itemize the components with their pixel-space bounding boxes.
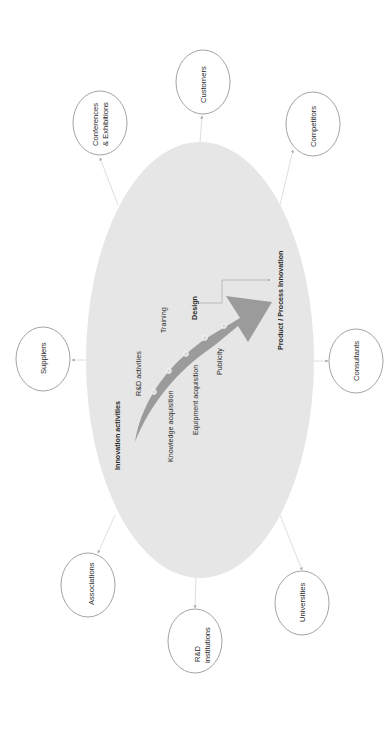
node-label: Consultants [352,341,361,381]
activity-rd: R&D activities [134,351,143,396]
connector-associations [98,515,115,553]
activity-knowledge-acquisition: Knowledge acquisition [166,390,175,462]
node-label-line1: Conferences [91,103,100,146]
node-rd-institutions: R&D institutions [168,609,222,673]
node-customers: Customers [176,50,230,114]
outcome-label: Product / Process Innovation [276,251,285,350]
step-dot [152,390,157,395]
connector-competitors [280,150,293,205]
node-consultants: Consultants [329,329,383,393]
activity-training: Training [159,307,168,333]
node-conferences: Conferences & Exhibitions [73,91,127,155]
node-universities: Universities [275,571,329,635]
node-label-line2: institutions [203,627,212,663]
innovation-sources-diagram: Innovation activities R&D activities Kno… [0,0,391,739]
connector-universities [280,515,302,570]
node-label: Competitors [309,106,318,147]
node-label-line1: R&D [193,645,202,662]
central-ellipse [86,142,314,578]
node-label: Suppliers [39,342,48,374]
node-label: Associations [87,562,96,605]
node-label: Customers [199,66,208,103]
node-associations: Associations [61,553,115,617]
node-suppliers: Suppliers [16,327,70,391]
step-dot [184,352,189,357]
activity-design: Design [190,296,199,320]
connector-conferences [100,158,118,205]
step-dot [222,324,227,329]
connector-customers [200,116,202,143]
node-competitors: Competitors [286,92,340,156]
activity-equipment-acquisition: Equipment acquisition [191,365,200,435]
node-label: Universities [298,583,307,622]
activity-publicity: Publicity [215,348,224,375]
node-label-line2: & Exhibitions [101,102,110,146]
step-dot [203,336,208,341]
step-dot [167,369,172,374]
connector-rd-institutions [195,577,196,608]
innovation-activities-title: Innovation activities [113,401,122,470]
